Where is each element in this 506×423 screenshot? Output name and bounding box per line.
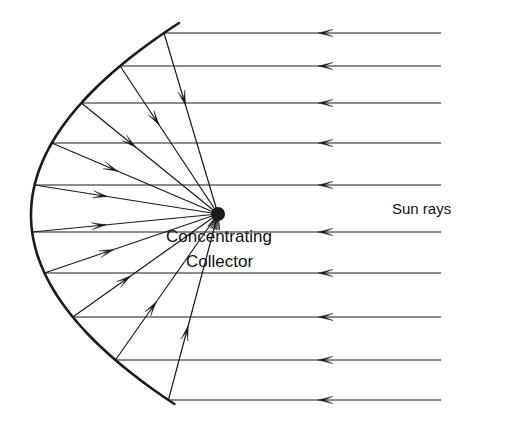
collector-label-line2: Collector (186, 252, 253, 272)
diagram-canvas: Concentrating Collector Sun rays (0, 0, 506, 423)
parabolic-mirror-icon (31, 23, 179, 404)
incoming-sun-rays-group (32, 29, 441, 403)
collector-label-line1: Concentrating (166, 227, 272, 247)
sun-rays-label: Sun rays (392, 200, 451, 217)
reflected-rays-group (32, 33, 218, 400)
